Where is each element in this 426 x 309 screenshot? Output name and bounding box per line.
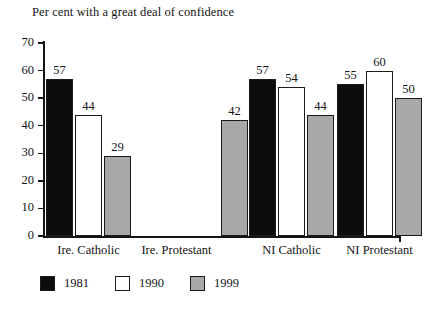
y-axis-tick-label: 70 <box>8 36 34 48</box>
y-axis-tick-label: 10 <box>8 201 34 213</box>
bar-value-label: 44 <box>303 100 338 113</box>
y-axis-tick-label: 0 <box>8 229 34 241</box>
bar <box>337 84 364 236</box>
legend-swatch-icon <box>115 276 130 291</box>
legend-item: 1990 <box>115 276 164 291</box>
y-axis-tick-label: 60 <box>8 64 34 76</box>
bar-value-label: 50 <box>391 83 426 96</box>
x-axis-line <box>43 236 401 238</box>
bar <box>104 156 131 236</box>
y-axis-tick-label: 40 <box>8 119 34 131</box>
y-axis-tick-label: 50 <box>8 91 34 103</box>
bar-value-label: 42 <box>217 105 252 118</box>
bar <box>249 79 276 236</box>
x-axis-label-ni-protestant: NI Protestant <box>307 243 426 257</box>
bar-value-label: 29 <box>100 141 135 154</box>
legend-swatch-icon <box>40 276 55 291</box>
legend-item: 1981 <box>40 276 89 291</box>
legend: 198119901999 <box>40 276 265 291</box>
bar-value-label: 54 <box>274 72 309 85</box>
x-axis-label-ire-protestant: Ire. Protestant <box>133 243 220 257</box>
y-axis-tick-label: 30 <box>8 146 34 158</box>
legend-swatch-icon <box>190 276 205 291</box>
bar <box>366 71 393 236</box>
bar <box>278 87 305 236</box>
legend-label: 1981 <box>64 277 89 290</box>
legend-label: 1990 <box>139 277 164 290</box>
x-axis-end-tick <box>399 236 401 242</box>
legend-item: 1999 <box>190 276 239 291</box>
legend-label: 1999 <box>214 277 239 290</box>
bar <box>221 120 248 236</box>
bar-value-label: 55 <box>333 69 368 82</box>
bar-value-label: 57 <box>42 64 77 77</box>
bar <box>75 115 102 236</box>
bar-value-label: 44 <box>71 100 106 113</box>
bar <box>307 115 334 236</box>
chart-title: Per cent with a great deal of confidence <box>32 5 234 20</box>
bar <box>46 79 73 236</box>
plot-area: 57442942575444556050 <box>44 43 400 236</box>
bar-chart: Per cent with a great deal of confidence… <box>0 0 426 309</box>
bar <box>395 98 422 236</box>
bar-value-label: 60 <box>362 56 397 69</box>
y-axis-tick-label: 20 <box>8 174 34 186</box>
